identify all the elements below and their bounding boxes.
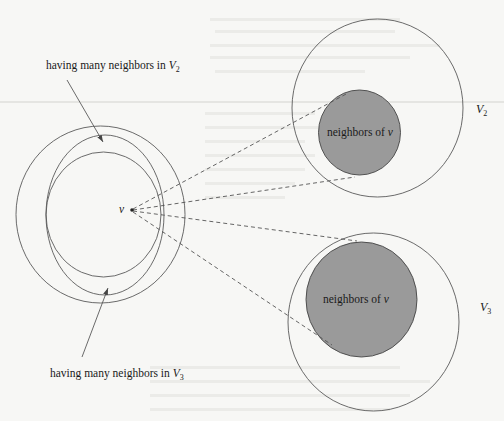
v1-set-group bbox=[16, 126, 185, 303]
arrow-bottom bbox=[82, 288, 108, 357]
v3-set-label: V3 bbox=[480, 300, 491, 316]
label-top: having many neighbors in V2 bbox=[46, 59, 180, 74]
vertex-v-dot bbox=[130, 208, 134, 212]
v3-neighbor-region bbox=[46, 152, 161, 277]
v1-outer-circle bbox=[16, 126, 185, 303]
edge-v-to-v3-bottom bbox=[133, 212, 332, 345]
label-bottom: having many neighbors in V3 bbox=[50, 367, 184, 382]
edge-v-to-v3-top bbox=[133, 211, 357, 241]
v2-neighbors-label: neighbors of v bbox=[327, 126, 394, 139]
edge-v-to-v2-bottom bbox=[133, 177, 355, 210]
v3-neighbors-label: neighbors of v bbox=[323, 293, 390, 306]
arrow-top bbox=[67, 80, 103, 142]
v2-neighbor-region bbox=[46, 135, 164, 295]
v2-set-label: V2 bbox=[476, 102, 487, 118]
bleed-through-text bbox=[0, 18, 504, 411]
v3-set-group bbox=[288, 233, 459, 411]
diagram-canvas: v having many neighbors in V2 having man… bbox=[0, 0, 504, 421]
edge-v-to-v2-top bbox=[133, 93, 348, 209]
vertex-v-label: v bbox=[119, 203, 125, 215]
